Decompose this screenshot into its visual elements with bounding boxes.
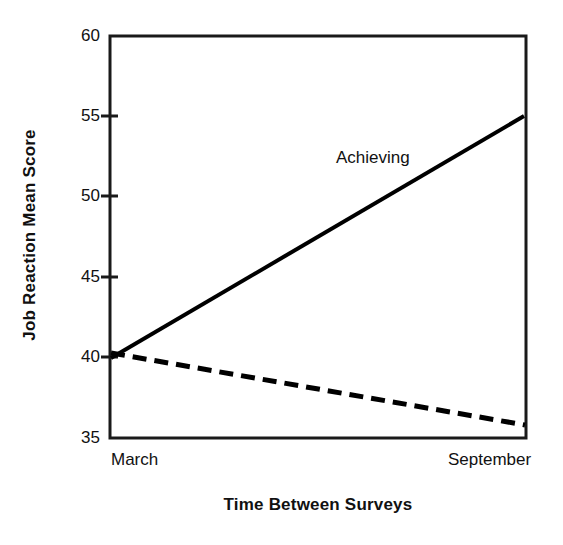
series-line-dashed	[111, 353, 525, 425]
x-axis-title-wrap: Time Between Surveys	[108, 495, 528, 515]
x-tick-label-march: March	[111, 450, 158, 470]
series-line-achieving	[111, 116, 524, 358]
x-tick-label-september: September	[448, 450, 531, 470]
series-annotation-achieving: Achieving	[336, 148, 410, 168]
y-tick-label-55: 55	[56, 106, 100, 126]
y-tick-label-35: 35	[56, 428, 100, 448]
y-tick-label-45: 45	[56, 267, 100, 287]
x-axis-title: Time Between Surveys	[224, 495, 413, 514]
y-tick-label-40: 40	[56, 347, 100, 367]
y-tick-label-60: 60	[56, 26, 100, 46]
y-tick-label-50: 50	[56, 186, 100, 206]
chart-figure: 60 55 50 45 40 35 March September Achiev…	[0, 0, 563, 545]
